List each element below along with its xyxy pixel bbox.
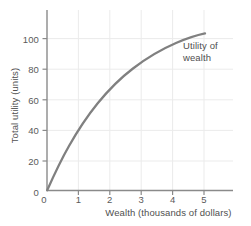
utility-of-wealth-curve xyxy=(47,33,205,190)
utility-of-wealth-chart: 100 80 60 40 20 0 0 1 2 3 4 5 Total util… xyxy=(0,0,251,226)
x-tick-label-0: 0 xyxy=(41,194,46,205)
curve-annotation: Utility of wealth xyxy=(183,40,218,63)
x-tick-label-1: 1 xyxy=(76,194,81,205)
curve-annotation-line2: wealth xyxy=(183,52,218,64)
y-axis-label: Total utility (units) xyxy=(9,41,20,171)
x-tick-label-3: 3 xyxy=(138,194,143,205)
curve-annotation-line1: Utility of xyxy=(183,40,218,52)
x-tick-label-5: 5 xyxy=(201,194,206,205)
x-tick-label-4: 4 xyxy=(170,194,175,205)
y-tick-label-0: 0 xyxy=(8,186,39,197)
x-axis-label: Wealth (thousands of dollars) xyxy=(86,207,251,218)
x-tick-label-2: 2 xyxy=(107,194,112,205)
